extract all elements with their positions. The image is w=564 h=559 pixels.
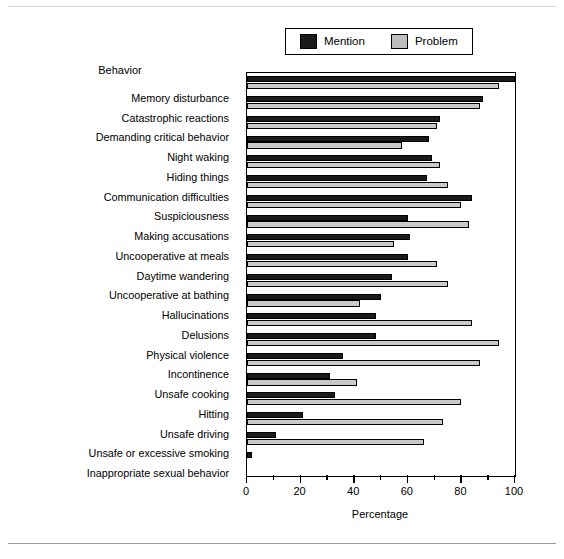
top-divider [8,6,556,7]
legend-swatch-problem-icon [391,34,408,49]
x-axis-major-tick [353,475,354,483]
legend-label-mention: Mention [324,36,365,48]
bar-problem [247,419,443,425]
bar-problem [247,241,394,247]
bar-mention [247,294,381,300]
bar-problem [247,399,461,405]
figure-container: Mention Problem Behavior Memory disturba… [0,0,564,559]
category-label: Hiding things [0,167,236,187]
bar-row [247,152,515,172]
category-label: Communication difficulties [0,187,236,207]
bar-row [247,231,515,251]
chart-legend: Mention Problem [285,28,473,55]
bar-mention [247,195,472,201]
x-axis-tick-label: 60 [401,485,413,497]
x-axis-major-tick [246,475,247,483]
x-axis-minor-tick [326,475,327,480]
legend-swatch-mention-icon [300,34,317,49]
bar-mention [247,274,392,280]
plot-area [246,72,516,477]
x-axis-tick-label: 0 [243,485,249,497]
category-label: Incontinence [0,365,236,385]
bar-problem [247,202,461,208]
bar-problem [247,182,448,188]
bar-row [247,113,515,133]
bar-mention [247,392,335,398]
x-axis-major-tick [300,475,301,483]
x-axis-tick-label: 80 [454,485,466,497]
bar-row [247,192,515,212]
legend-entry-problem: Problem [391,34,458,49]
bar-row [247,73,515,93]
bar-problem [247,162,440,168]
category-label: Inappropriate sexual behavior [0,463,236,483]
bar-problem [247,123,437,129]
bar-mention [247,215,408,221]
bar-mention [247,96,483,102]
bar-mention [247,452,252,458]
category-axis-title: Behavior [0,64,240,76]
bar-mention [247,313,376,319]
x-axis-minor-tick [273,475,274,480]
bar-row [247,409,515,429]
category-label: Hitting [0,404,236,424]
bar-mention [247,254,408,260]
bar-problem [247,261,437,267]
category-label: Unsafe driving [0,424,236,444]
bar-row [247,290,515,310]
bottom-divider [8,543,556,544]
bar-problem [247,142,402,148]
bar-row [247,310,515,330]
category-label: Uncooperative at bathing [0,286,236,306]
bar-problem [247,379,357,385]
legend-label-problem: Problem [415,36,458,48]
bar-problem [247,439,424,445]
bar-problem [247,320,472,326]
x-axis: 020406080100 [246,475,514,476]
bar-problem [247,103,480,109]
legend-entry-mention: Mention [300,34,365,49]
x-axis-tick-label: 40 [347,485,359,497]
bar-mention [247,333,376,339]
bar-row [247,429,515,449]
bar-row [247,172,515,192]
bar-problem [247,360,480,366]
category-label: Making accusations [0,226,236,246]
x-axis-major-tick [407,475,408,483]
bar-row [247,330,515,350]
category-label-list: Memory disturbanceCatastrophic reactions… [0,88,236,483]
bar-mention [247,353,343,359]
bar-mention [247,155,432,161]
bar-row [247,271,515,291]
bar-row [247,211,515,231]
bar-row [247,350,515,370]
bar-mention [247,116,440,122]
bar-row [247,369,515,389]
category-label: Demanding critical behavior [0,128,236,148]
bar-problem [247,221,469,227]
bar-row [247,93,515,113]
bar-mention [247,234,410,240]
bar-problem [247,340,499,346]
bar-row [247,448,515,468]
x-axis-title: Percentage [246,508,514,520]
category-label: Unsafe cooking [0,384,236,404]
category-label: Unsafe or excessive smoking [0,444,236,464]
category-label: Uncooperative at meals [0,246,236,266]
bar-mention [247,76,515,82]
bar-group [247,73,515,476]
bar-problem [247,300,360,306]
category-label: Catastrophic reactions [0,108,236,128]
x-axis-minor-tick [380,475,381,480]
x-axis-minor-tick [487,475,488,480]
bar-problem [247,281,448,287]
bar-mention [247,432,276,438]
category-label: Hallucinations [0,305,236,325]
bar-problem [247,83,499,89]
x-axis-major-tick [514,475,515,483]
category-label: Suspiciousness [0,207,236,227]
bar-row [247,132,515,152]
bar-mention [247,136,429,142]
bar-mention [247,412,303,418]
category-label: Delusions [0,325,236,345]
